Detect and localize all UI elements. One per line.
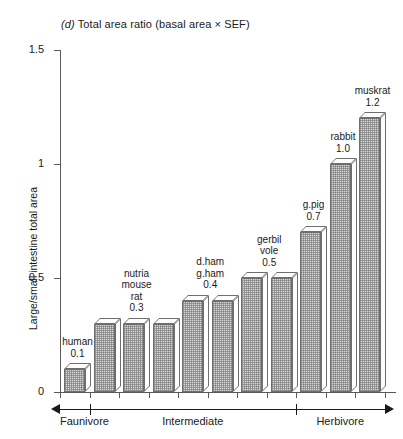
diet-range-cap [296, 404, 297, 415]
bar-side-face [144, 318, 150, 392]
x-axis-line [60, 392, 396, 393]
bar-front-face [123, 324, 144, 392]
chart-figure: (d) Total area ratio (basal area × SEF) … [0, 0, 403, 439]
bar-front-face [241, 278, 262, 392]
bar-front-face [212, 301, 233, 392]
bar-annotation: gerbil vole 0.5 [234, 234, 304, 269]
x-axis-tick [296, 392, 297, 398]
x-axis-tick [119, 392, 120, 398]
diet-arrow-right-icon [385, 404, 394, 414]
bar-front-face [153, 324, 174, 392]
x-axis-tick [60, 392, 61, 398]
x-axis-tick [355, 392, 356, 398]
diet-range-line [296, 409, 385, 410]
bar-side-face [115, 318, 121, 392]
bar-front-face [182, 301, 203, 392]
diet-range-line [60, 409, 90, 410]
x-axis-tick [237, 392, 238, 398]
bar-front-face [271, 278, 292, 392]
bar-annotation: muskrat 1.2 [338, 85, 403, 108]
bar-side-face [262, 272, 268, 392]
bar-annotation: nutria mouse rat 0.3 [102, 268, 172, 314]
x-axis-tick [90, 392, 91, 398]
x-axis-tick [267, 392, 268, 398]
x-axis-tick [208, 392, 209, 398]
bar-mouse [123, 324, 144, 392]
bar-g.ham [212, 301, 233, 392]
x-axis-tick [385, 392, 386, 398]
x-axis-tick [178, 392, 179, 398]
y-axis-title: Large/small intestine total area [27, 187, 39, 330]
diet-label-intermediate: Intermediate [90, 415, 297, 427]
bar-side-face [233, 295, 239, 392]
y-axis-tick-label: 1 [0, 157, 44, 169]
x-axis-tick [149, 392, 150, 398]
x-axis-tick [326, 392, 327, 398]
bar-muskrat [359, 118, 380, 392]
y-axis-tick-label: 0.5 [0, 271, 44, 283]
bar-side-face [380, 112, 386, 392]
bar-annotation: human 0.1 [43, 336, 113, 359]
bar-side-face [203, 295, 209, 392]
bar-annotation: rabbit 1.0 [308, 131, 378, 154]
bar-front-face [330, 164, 351, 392]
bar-front-face [359, 118, 380, 392]
bar-front-face [64, 369, 85, 392]
bar-human [64, 369, 85, 392]
bar-annotation: g.pig 0.7 [279, 199, 349, 222]
y-axis-tick-label: 1.5 [0, 43, 44, 55]
plot-area: human 0.1nutria mouse rat 0.3d.ham g.ham… [60, 50, 396, 392]
chart-title-text: Total area ratio (basal area × SEF) [75, 18, 250, 30]
diet-arrow-left-icon [51, 404, 60, 414]
diet-label-herbivore: Herbivore [296, 415, 385, 427]
bar-side-face [351, 158, 357, 392]
bar-side-face [321, 226, 327, 392]
panel-letter: (d) [61, 18, 75, 30]
bar-rabbit [330, 164, 351, 392]
bar-rat [153, 324, 174, 392]
bar-side-face [174, 318, 180, 392]
chart-title: (d) Total area ratio (basal area × SEF) [61, 18, 250, 30]
bar-side-face [292, 272, 298, 392]
diet-label-faunivore: Faunivore [60, 415, 90, 427]
diet-range-cap [90, 404, 91, 415]
y-axis-tick-label: 0 [0, 385, 44, 397]
bar-d.ham [182, 301, 203, 392]
bar-vole [271, 278, 292, 392]
diet-range-line [90, 409, 297, 410]
bar-gerbil [241, 278, 262, 392]
